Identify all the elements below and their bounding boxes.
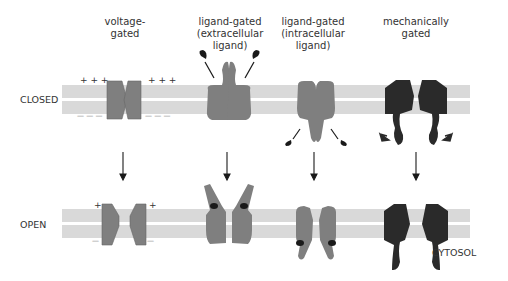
title-line: voltage- bbox=[95, 16, 155, 28]
charge-minus-right-closed: — — — bbox=[145, 112, 170, 120]
title-line: gated bbox=[376, 28, 456, 40]
row-label-open: OPEN bbox=[20, 219, 46, 230]
title-line: ligand) bbox=[190, 40, 270, 52]
transition-arrows bbox=[120, 152, 419, 180]
title-line: mechanically bbox=[376, 16, 456, 28]
title-line: gated bbox=[95, 28, 155, 40]
column-title-mechanically-gated: mechanically gated bbox=[376, 16, 456, 40]
ligand-intra-channel-closed bbox=[297, 81, 335, 142]
column-title-ligand-extracellular: ligand-gated (extracellular ligand) bbox=[190, 16, 270, 52]
charge-minus-left-open: — bbox=[92, 237, 99, 245]
title-line: ligand) bbox=[273, 40, 353, 52]
cytosol-label: CYTOSOL bbox=[432, 247, 476, 258]
charge-plus-right-open: + bbox=[149, 200, 157, 210]
charge-minus-left-closed: — — — bbox=[77, 112, 102, 120]
title-line: ligand-gated bbox=[273, 16, 353, 28]
charge-plus-right-closed: + + + bbox=[148, 75, 176, 85]
title-line: (extracellular bbox=[190, 28, 270, 40]
column-title-voltage-gated: voltage- gated bbox=[95, 16, 155, 40]
charge-plus-left-open: + bbox=[94, 200, 102, 210]
charge-minus-right-open: — bbox=[147, 237, 154, 245]
row-label-closed: CLOSED bbox=[20, 94, 58, 105]
column-title-ligand-intracellular: ligand-gated (intracellular ligand) bbox=[273, 16, 353, 52]
title-line: (intracellular bbox=[273, 28, 353, 40]
charge-plus-left-closed: + + + bbox=[80, 75, 108, 85]
title-line: ligand-gated bbox=[190, 16, 270, 28]
